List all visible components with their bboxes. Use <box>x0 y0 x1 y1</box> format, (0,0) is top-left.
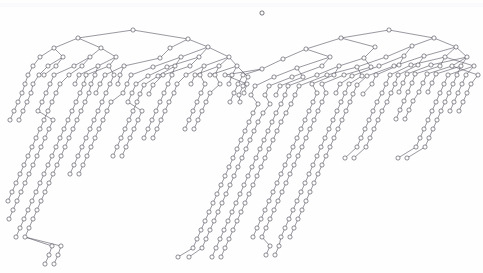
tree-node <box>443 100 447 104</box>
tree-node <box>258 147 262 151</box>
tree-node <box>284 181 288 185</box>
tree-node <box>252 129 256 133</box>
tree-node <box>385 100 389 104</box>
tree-node <box>407 108 411 112</box>
tree-node <box>392 64 396 68</box>
tree-node <box>122 64 126 68</box>
tree-node <box>14 181 18 185</box>
tree-node <box>261 111 265 115</box>
tree-node <box>413 72 417 76</box>
tree-node <box>367 118 371 122</box>
tree-node <box>35 154 39 158</box>
tree-node <box>170 73 174 77</box>
tree-node <box>83 100 87 104</box>
tree-node <box>368 136 372 140</box>
tree-node <box>410 44 414 48</box>
tree-node <box>227 55 231 59</box>
tree-node <box>23 235 27 239</box>
tree-node <box>244 147 248 151</box>
tree-node <box>301 75 305 79</box>
tree-node <box>38 55 42 59</box>
tree-node <box>421 81 425 85</box>
tree-node <box>142 136 146 140</box>
tree-node <box>46 109 50 113</box>
tree-node <box>287 217 291 221</box>
tree-node <box>242 183 246 187</box>
tree-node <box>297 84 301 88</box>
tree-edge <box>434 38 456 47</box>
tree-node <box>409 63 413 67</box>
tree-node <box>377 64 381 68</box>
tree-node <box>31 163 35 167</box>
tree-node <box>63 145 67 149</box>
tree-node <box>406 90 410 94</box>
tree-node <box>187 118 191 122</box>
tree-node <box>125 82 129 86</box>
tree-node <box>206 45 210 49</box>
tree-node <box>198 73 202 77</box>
tree-node <box>195 100 199 104</box>
tree-node <box>223 246 227 250</box>
tree-node <box>142 83 146 87</box>
tree-root-node <box>260 11 264 15</box>
tree-node <box>303 181 307 185</box>
tree-node <box>21 109 25 113</box>
tree-node <box>288 235 292 239</box>
tree-node <box>104 91 108 95</box>
tree-node <box>224 192 228 196</box>
tree-node <box>39 145 43 149</box>
tree-edge <box>98 57 116 66</box>
tree-node <box>295 66 299 70</box>
tree-node <box>325 73 329 77</box>
tree-node <box>248 138 252 142</box>
tree-node <box>46 64 50 68</box>
tree-node <box>210 255 214 259</box>
tree-node <box>127 118 131 122</box>
tree-edge <box>243 69 262 75</box>
tree-node <box>54 64 58 68</box>
tree-node <box>159 118 163 122</box>
tree-node <box>320 64 324 68</box>
tree-node <box>51 118 55 122</box>
tree-node <box>262 138 266 142</box>
tree-node <box>163 109 167 113</box>
tree-node <box>241 84 245 88</box>
tree-node <box>264 226 268 230</box>
tree-node <box>460 82 464 86</box>
tree-node <box>112 73 116 77</box>
tree-edge <box>339 58 364 66</box>
tree-node <box>166 82 170 86</box>
tree-node <box>230 210 234 214</box>
tree-node <box>50 100 54 104</box>
tree-node <box>54 91 58 95</box>
tree-node <box>292 163 296 167</box>
tree-edge <box>78 30 133 38</box>
tree-edge <box>133 30 188 39</box>
tree-node <box>23 82 27 86</box>
tree-node <box>123 127 127 131</box>
tree-node <box>76 36 80 40</box>
tree-node <box>67 136 71 140</box>
tree-node <box>434 100 438 104</box>
tree-node <box>207 210 211 214</box>
tree-node <box>119 136 123 140</box>
tree-node <box>218 237 222 241</box>
tree-node <box>10 190 14 194</box>
tree-node <box>134 82 138 86</box>
tree-node <box>130 91 134 95</box>
tree-node <box>82 82 86 86</box>
tree-node <box>230 73 234 77</box>
tree-node <box>320 100 324 104</box>
tree-node <box>212 219 216 223</box>
tree-node <box>114 55 118 59</box>
tree-node <box>54 145 58 149</box>
tree-node <box>179 55 183 59</box>
tree-node <box>68 172 72 176</box>
tree-node <box>84 73 88 77</box>
tree-node <box>397 63 401 67</box>
tree-node <box>155 127 159 131</box>
tree-node <box>365 74 369 78</box>
tree-edge <box>54 38 78 48</box>
tree-node <box>432 36 436 40</box>
tree-node <box>429 63 433 67</box>
